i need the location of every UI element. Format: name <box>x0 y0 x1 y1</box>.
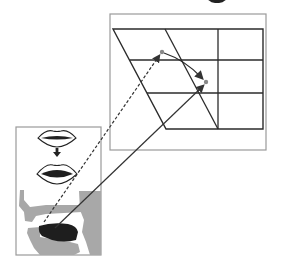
articulation-to-vowel-diagram <box>0 0 281 268</box>
end-vowel-point <box>204 80 208 84</box>
diagram-canvas <box>0 0 281 268</box>
start-vowel-point <box>160 50 164 54</box>
vowel-chart-panel <box>110 14 266 150</box>
articulation-panel <box>16 127 101 255</box>
